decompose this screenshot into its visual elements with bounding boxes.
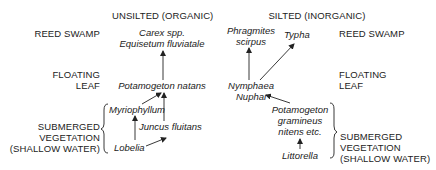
- right-brace-icon: [330, 103, 337, 158]
- arrow-myriophyllum-to-natans: [142, 93, 161, 104]
- succession-arrows: [0, 0, 436, 170]
- arrow-potamogeton-to-nuphar: [266, 95, 290, 103]
- arrow-nymphaea-to-typha: [260, 44, 294, 80]
- arrow-lobelia-to-juncus: [146, 138, 166, 146]
- left-brace-icon: [101, 104, 108, 153]
